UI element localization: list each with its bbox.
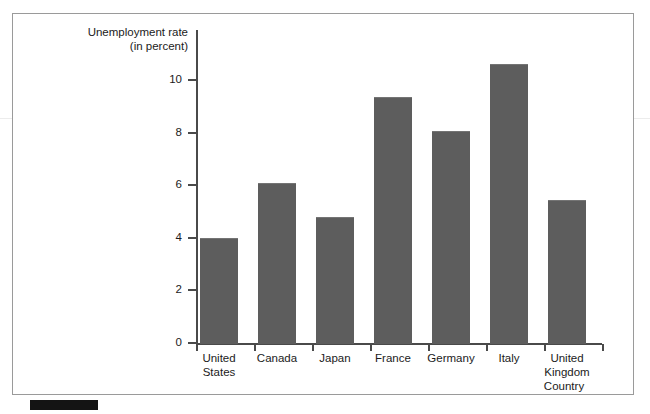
- y-tick-2: [188, 289, 196, 291]
- y-tick-8: [188, 132, 196, 134]
- y-axis-title-line1: Unemployment rate: [36, 25, 188, 39]
- x-tick-4: [428, 344, 430, 351]
- x-tick-7: [602, 344, 604, 351]
- category-label-line: Kingdom: [529, 366, 605, 380]
- y-tick-0: [188, 342, 196, 344]
- y-tick-label-0: 0: [152, 336, 182, 348]
- category-label-line: United: [529, 352, 605, 366]
- category-label-united-kingdom: UnitedKingdom: [529, 352, 605, 379]
- footer-marker-block: [30, 400, 98, 410]
- x-tick-3: [370, 344, 372, 351]
- x-tick-2: [312, 344, 314, 351]
- y-axis-title-line2: (in percent): [36, 39, 188, 53]
- x-tick-0: [196, 344, 198, 351]
- x-tick-1: [254, 344, 256, 351]
- bar-united-kingdom[interactable]: [548, 200, 586, 344]
- category-label-line: States: [181, 366, 257, 380]
- y-tick-10: [188, 79, 196, 81]
- y-axis-line: [196, 30, 198, 344]
- y-tick-label-10: 10: [152, 73, 182, 85]
- y-axis-title: Unemployment rate (in percent): [36, 25, 188, 53]
- y-tick-label-8: 8: [152, 126, 182, 138]
- bar-japan[interactable]: [316, 217, 354, 344]
- y-tick-4: [188, 237, 196, 239]
- x-axis-title: Country: [524, 380, 604, 392]
- y-tick-label-4: 4: [152, 231, 182, 243]
- bar-germany[interactable]: [432, 131, 470, 344]
- bar-france[interactable]: [374, 97, 412, 344]
- y-tick-6: [188, 184, 196, 186]
- x-tick-5: [486, 344, 488, 351]
- y-tick-label-6: 6: [152, 178, 182, 190]
- bar-chart: Unemployment rate (in percent) 0246810 U…: [0, 0, 650, 414]
- bar-italy[interactable]: [490, 64, 528, 344]
- y-tick-label-2: 2: [152, 283, 182, 295]
- x-tick-6: [544, 344, 546, 351]
- bar-canada[interactable]: [258, 183, 296, 344]
- bar-united-states[interactable]: [200, 238, 238, 344]
